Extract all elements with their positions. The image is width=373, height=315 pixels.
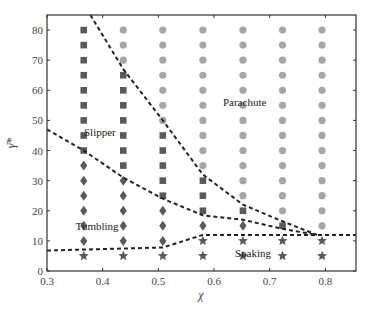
- y-tick-label: 20: [32, 205, 44, 217]
- parachute-marker: [318, 117, 325, 124]
- tumbling-marker: [159, 236, 166, 246]
- parachute-marker: [318, 132, 325, 139]
- parachute-marker: [279, 207, 286, 214]
- snaking-marker: [158, 251, 168, 260]
- parachute-marker: [159, 57, 166, 64]
- region-label-parachute: Parachute: [223, 96, 266, 108]
- tumbling-marker: [120, 206, 127, 216]
- parachute-marker: [120, 26, 127, 33]
- x-axis-label: χ: [197, 288, 204, 302]
- slipper-marker: [80, 87, 87, 94]
- parachute-marker: [318, 222, 325, 229]
- tumbling-marker: [159, 206, 166, 216]
- slipper-marker: [120, 117, 127, 124]
- x-tick-label: 0.4: [96, 275, 110, 287]
- slipper-marker: [120, 162, 127, 169]
- parachute-marker: [318, 26, 325, 33]
- parachute-marker: [318, 177, 325, 184]
- tumbling-marker: [120, 191, 127, 201]
- parachute-marker: [199, 72, 206, 79]
- x-tick-label: 0.6: [207, 275, 221, 287]
- snaking-marker: [198, 251, 208, 260]
- y-tick-label: 10: [32, 235, 44, 247]
- parachute-marker: [279, 72, 286, 79]
- snaking-marker: [79, 251, 89, 260]
- slipper-marker: [80, 102, 87, 109]
- slipper-marker: [160, 132, 167, 139]
- snaking-marker: [238, 236, 248, 245]
- parachute-marker: [279, 162, 286, 169]
- slipper-marker: [160, 147, 167, 154]
- parachute-marker: [239, 57, 246, 64]
- snaking-marker: [317, 251, 327, 260]
- tumbling-marker: [80, 236, 87, 246]
- slipper-marker: [120, 87, 127, 94]
- parachute-marker: [318, 147, 325, 154]
- parachute-marker: [159, 26, 166, 33]
- parachute-marker: [239, 87, 246, 94]
- parachute-marker: [279, 87, 286, 94]
- parachute-marker: [279, 117, 286, 124]
- slipper-marker: [240, 207, 247, 214]
- parachute-marker: [318, 102, 325, 109]
- slipper-marker: [120, 72, 127, 79]
- parachute-marker: [318, 162, 325, 169]
- parachute-marker: [159, 72, 166, 79]
- parachute-marker: [239, 147, 246, 154]
- parachute-marker: [159, 87, 166, 94]
- region-label-tumbling: Tumbling: [76, 220, 120, 232]
- parachute-marker: [318, 87, 325, 94]
- parachute-marker: [199, 162, 206, 169]
- parachute-marker: [239, 132, 246, 139]
- slipper-marker: [80, 117, 87, 124]
- parachute-marker: [279, 192, 286, 199]
- slipper-marker: [200, 177, 207, 184]
- tumbling-marker: [239, 221, 246, 231]
- parachute-marker: [120, 57, 127, 64]
- parachute-marker: [239, 162, 246, 169]
- y-tick-label: 40: [32, 145, 44, 157]
- parachute-marker: [239, 26, 246, 33]
- x-tick-label: 0.7: [263, 275, 277, 287]
- y-tick-label: 50: [32, 114, 44, 126]
- y-axis-label: γ̄*: [4, 138, 18, 149]
- parachute-marker: [199, 57, 206, 64]
- slipper-marker: [80, 42, 87, 49]
- region-label-slipper: Slipper: [84, 126, 116, 138]
- x-tick-label: 0.5: [151, 275, 165, 287]
- parachute-marker: [239, 192, 246, 199]
- snaking-marker: [278, 251, 288, 260]
- slipper-marker: [160, 162, 167, 169]
- regime-map-chart: 0.30.40.50.60.70.8 01020304050607080 Sli…: [0, 0, 373, 315]
- slipper-marker: [200, 207, 207, 214]
- parachute-marker: [199, 117, 206, 124]
- parachute-marker: [318, 57, 325, 64]
- parachute-marker: [318, 72, 325, 79]
- snaking-marker: [278, 236, 288, 245]
- parachute-marker: [159, 42, 166, 49]
- tumbling-marker: [80, 161, 87, 171]
- parachute-marker: [279, 102, 286, 109]
- parachute-marker: [159, 102, 166, 109]
- tumbling-marker: [120, 176, 127, 186]
- y-tick-label: 70: [32, 54, 44, 66]
- tumbling-marker: [120, 236, 127, 246]
- slipper-marker: [80, 57, 87, 64]
- y-tick-label: 30: [32, 175, 44, 187]
- slipper-marker: [120, 132, 127, 139]
- x-tick-label: 0.8: [319, 275, 333, 287]
- parachute-marker: [199, 147, 206, 154]
- parachute-marker: [239, 117, 246, 124]
- parachute-marker: [239, 72, 246, 79]
- parachute-marker: [279, 57, 286, 64]
- y-tick-label: 80: [32, 24, 44, 36]
- parachute-marker: [279, 26, 286, 33]
- parachute-marker: [318, 207, 325, 214]
- slipper-marker: [160, 177, 167, 184]
- slipper-marker: [120, 102, 127, 109]
- tumbling-marker: [80, 191, 87, 201]
- slipper-marker: [120, 147, 127, 154]
- parachute-marker: [199, 42, 206, 49]
- parachute-marker: [279, 147, 286, 154]
- slipper-marker: [80, 72, 87, 79]
